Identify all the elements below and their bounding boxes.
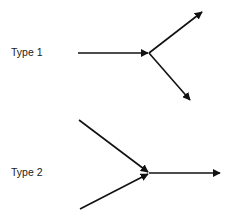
type-2-incoming-arrow-top	[79, 120, 148, 172]
type-1-outgoing-arrow-down	[149, 53, 190, 100]
type-1-outgoing-arrow-up	[149, 12, 202, 53]
arrow-diagram	[0, 0, 231, 220]
type-1-diagram	[78, 12, 202, 100]
type-2-diagram	[79, 120, 220, 209]
type-2-incoming-arrow-bottom	[80, 174, 148, 209]
